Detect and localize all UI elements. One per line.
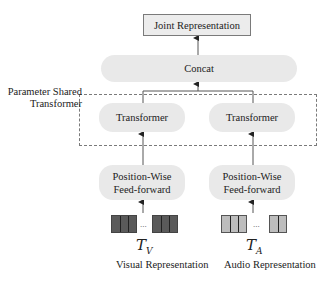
- visual-token: [153, 216, 161, 232]
- group-label-line2: Transformer: [4, 98, 82, 110]
- visual-token: [161, 216, 169, 232]
- audio-token: [222, 216, 230, 232]
- transformer-left-node: Transformer: [99, 103, 185, 132]
- feedforward-left-node: Position-Wise Feed-forward: [99, 165, 185, 200]
- transformer-left-label: Transformer: [116, 111, 168, 124]
- joint-representation-label: Joint Representation: [154, 20, 240, 31]
- visual-symbol: TV: [136, 236, 153, 256]
- audio-token: [230, 216, 238, 232]
- feedforward-right-line1: Position-Wise: [222, 170, 281, 183]
- feedforward-left-line1: Position-Wise: [112, 170, 171, 183]
- audio-token: [278, 216, 286, 232]
- visual-token: [169, 216, 177, 232]
- feedforward-right-node: Position-Wise Feed-forward: [209, 165, 295, 200]
- parameter-shared-label: Parameter Shared Transformer: [4, 86, 82, 110]
- joint-representation-node: Joint Representation: [143, 14, 251, 36]
- audio-token: [238, 216, 246, 232]
- audio-representation-label: Audio Representation: [224, 259, 316, 270]
- audio-token-group-end: [269, 215, 287, 233]
- visual-token: [128, 216, 136, 232]
- visual-representation-label: Visual Representation: [116, 259, 208, 270]
- visual-token-group-start: [111, 215, 137, 233]
- feedforward-right-line2: Feed-forward: [222, 183, 281, 196]
- audio-token-group-start: [221, 215, 247, 233]
- audio-token: [270, 216, 278, 232]
- audio-ellipsis: ...: [253, 219, 260, 229]
- visual-token-group-end: [152, 215, 178, 233]
- transformer-right-node: Transformer: [209, 103, 295, 132]
- concat-node: Concat: [101, 55, 297, 82]
- audio-symbol: TA: [246, 236, 263, 256]
- visual-token: [120, 216, 128, 232]
- transformer-right-label: Transformer: [226, 111, 278, 124]
- concat-label: Concat: [184, 62, 214, 75]
- visual-token: [112, 216, 120, 232]
- visual-ellipsis: ...: [140, 219, 147, 229]
- group-label-line1: Parameter Shared: [4, 86, 82, 98]
- feedforward-left-line2: Feed-forward: [112, 183, 171, 196]
